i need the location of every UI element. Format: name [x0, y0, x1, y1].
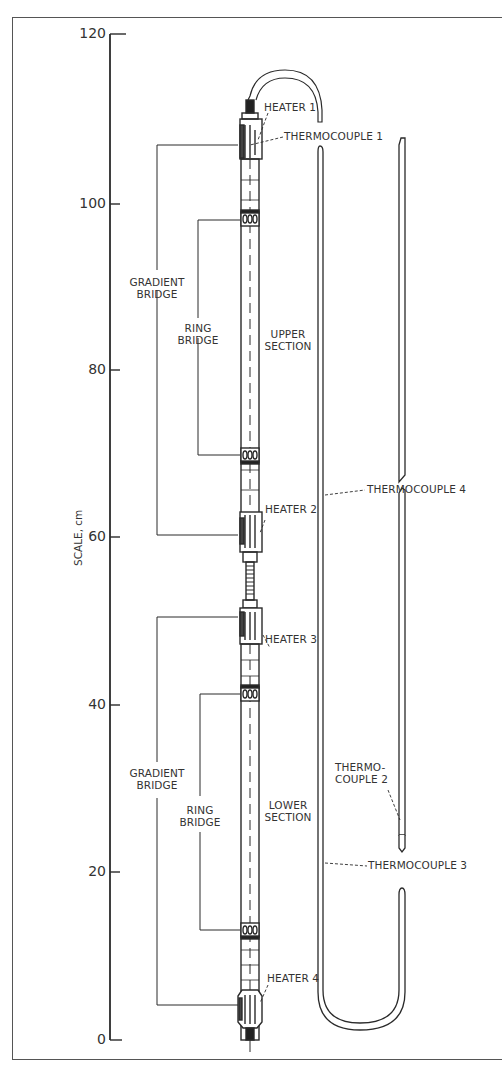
label-upper-section-line2: SECTION — [263, 340, 313, 352]
label-gradient-bridge-lower-line1: GRADIENT — [129, 767, 185, 779]
label-gradient-bridge-upper: GRADIENT BRIDGE — [129, 276, 185, 300]
lower-section-rod — [238, 600, 262, 1052]
label-lower-section-line1: LOWER — [263, 799, 313, 811]
scale-tick-0: 0 — [66, 1031, 106, 1047]
label-thermocouple-2-line1: THERMO- — [335, 761, 388, 773]
label-upper-section: UPPER SECTION — [263, 328, 313, 352]
label-ring-bridge-lower-line2: BRIDGE — [179, 816, 221, 828]
label-gradient-bridge-upper-line2: BRIDGE — [129, 288, 185, 300]
label-ring-bridge-upper: RING BRIDGE — [177, 322, 219, 346]
label-lower-section: LOWER SECTION — [263, 799, 313, 823]
label-upper-section-line1: UPPER — [263, 328, 313, 340]
label-heater-2: HEATER 2 — [265, 503, 317, 515]
label-heater-3: HEATER 3 — [265, 633, 317, 645]
label-gradient-bridge-upper-line1: GRADIENT — [129, 276, 185, 288]
label-ring-bridge-lower-line1: RING — [179, 804, 221, 816]
coupling-spring — [246, 562, 254, 600]
label-thermocouple-1: THERMOCOUPLE 1 — [284, 130, 383, 142]
label-ring-bridge-upper-line2: BRIDGE — [177, 334, 219, 346]
label-heater-1: HEATER 1 — [264, 101, 316, 113]
upper-section-rod — [240, 70, 322, 562]
scale-tick-40: 40 — [66, 696, 106, 712]
label-lower-section-line2: SECTION — [263, 811, 313, 823]
scale-tick-100: 100 — [66, 195, 106, 211]
label-gradient-bridge-lower: GRADIENT BRIDGE — [129, 767, 185, 791]
label-thermocouple-4: THERMOCOUPLE 4 — [367, 483, 466, 495]
label-ring-bridge-upper-line1: RING — [177, 322, 219, 334]
label-ring-bridge-lower: RING BRIDGE — [179, 804, 221, 828]
label-thermocouple-2: THERMO- COUPLE 2 — [335, 761, 388, 785]
label-gradient-bridge-lower-line2: BRIDGE — [129, 779, 185, 791]
u-tube — [318, 138, 405, 1030]
scale-tick-80: 80 — [66, 361, 106, 377]
label-heater-4: HEATER 4 — [267, 972, 319, 984]
label-thermocouple-2-line2: COUPLE 2 — [335, 773, 388, 785]
label-thermocouple-3: THERMOCOUPLE 3 — [368, 859, 467, 871]
scale-tick-20: 20 — [66, 863, 106, 879]
scale-axis-label: SCALE, cm — [72, 510, 84, 566]
scale-axis — [110, 34, 126, 1040]
scale-tick-120: 120 — [66, 25, 106, 41]
